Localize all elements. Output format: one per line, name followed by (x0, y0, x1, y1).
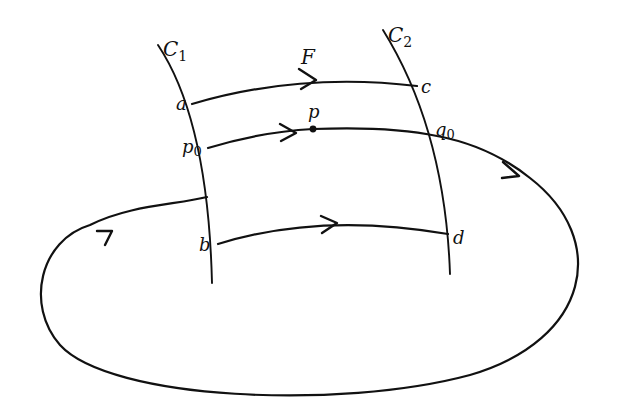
flow-box-diagram: C1 C2 F a c p p0 q0 b d (0, 0, 618, 420)
label-flow-f: F (300, 45, 316, 69)
flow-line-b-d (218, 225, 448, 244)
section-c2-curve (383, 30, 450, 274)
arrow-icon (97, 231, 112, 245)
label-b: b (199, 234, 211, 255)
arrow-icon (299, 69, 316, 89)
label-p: p (308, 101, 320, 122)
label-c1: C1 (163, 37, 187, 64)
diagram-canvas: C1 C2 F a c p p0 q0 b d (0, 0, 618, 420)
label-d: d (453, 227, 465, 248)
label-q0: q0 (435, 119, 455, 142)
flow-line-a-c (192, 82, 417, 104)
label-p0: p0 (182, 136, 202, 159)
label-a: a (176, 93, 187, 114)
point-p-dot (310, 126, 317, 133)
orbit-curve (41, 128, 578, 395)
label-c: c (421, 76, 431, 97)
label-c2: C2 (388, 23, 412, 50)
